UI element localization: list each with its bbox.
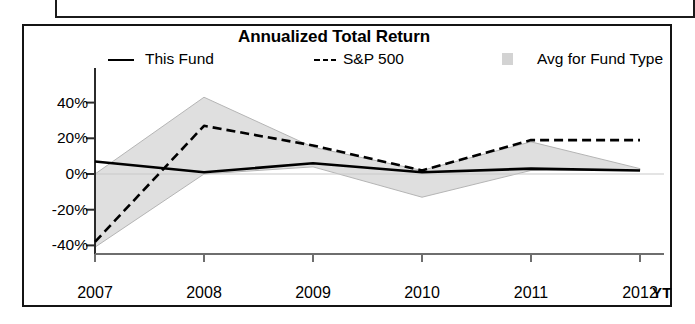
x-axis-unit-label: YT xyxy=(652,284,672,302)
y-axis-tick-label: -40% xyxy=(32,237,88,253)
x-axis-tick-label: 2011 xyxy=(514,284,548,302)
x-axis-tick-label: 2009 xyxy=(295,284,331,302)
y-axis-tick-labels: -40%-20%0%20%40% xyxy=(28,26,88,306)
y-axis-tick-label: 0% xyxy=(32,166,88,182)
x-axis-tick-label: 2007 xyxy=(77,284,113,302)
plot-area: -40%-20%0%20%40% 20072008200920102011201… xyxy=(24,26,672,306)
band-avg-for-fund-type xyxy=(95,97,640,247)
y-axis-tick-label: 20% xyxy=(32,130,88,146)
x-axis-tick-labels: 200720082009201020112012 xyxy=(24,284,672,312)
y-axis-tick-label: 40% xyxy=(32,95,88,111)
chart-frame: Annualized Total Return This Fund S&P 50… xyxy=(22,24,672,307)
page-top-border-box xyxy=(55,0,695,18)
x-axis-tick-label: 2008 xyxy=(186,284,222,302)
y-axis-tick-label: -20% xyxy=(32,202,88,218)
plot-svg xyxy=(24,26,672,306)
x-axis-tick-label: 2010 xyxy=(404,284,440,302)
